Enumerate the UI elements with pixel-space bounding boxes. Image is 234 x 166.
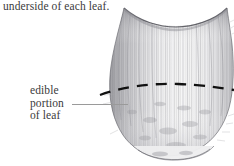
callout-line-3: of leaf [30,109,64,122]
caption-underside-of-each-leaf: underside of each leaf. [3,0,109,13]
callout-line-1: edible [30,84,64,97]
leaf-illustration-icon [0,0,234,166]
callout-leader-line [72,104,128,105]
callout-line-2: portion [30,97,64,110]
callout-edible-portion-of-leaf: edible portion of leaf [30,84,64,122]
figure-canvas: underside of each leaf. edible portion o… [0,0,234,166]
leaf-base [133,146,214,160]
